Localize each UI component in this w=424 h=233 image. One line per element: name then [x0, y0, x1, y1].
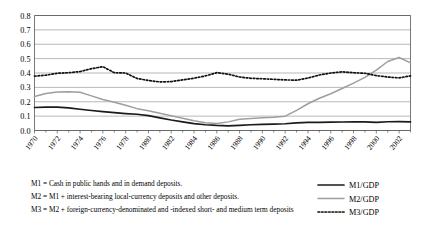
y-tick-label: 0.2 — [20, 98, 30, 107]
footnotes-group: M1 = Cash in public hands and in demand … — [31, 179, 294, 214]
x-tick-label: 1982 — [160, 134, 177, 152]
money-gdp-line-chart: 0.00.10.20.30.40.50.60.70.8 197019721974… — [0, 0, 424, 233]
footnote-m3: M3 = M2 + foreign-currency-denominated a… — [31, 205, 294, 214]
x-tick-label: 1988 — [228, 134, 245, 152]
series-line-m2-gdp — [35, 57, 411, 123]
x-tick-label: 1998 — [342, 134, 359, 152]
legend-label-m1-gdp: M1/GDP — [349, 181, 379, 190]
y-tick-label: 0.4 — [20, 69, 30, 78]
chart-figure: 0.00.10.20.30.40.50.60.70.8 197019721974… — [0, 0, 424, 233]
x-tick-label: 1970 — [23, 134, 40, 152]
y-axis-tick-labels: 0.00.10.20.30.40.50.60.70.8 — [20, 12, 30, 136]
x-tick-label: 1976 — [91, 134, 108, 152]
x-tick-label: 1994 — [297, 134, 314, 152]
x-tick-label: 1972 — [46, 134, 63, 152]
x-tick-label: 1984 — [183, 134, 200, 152]
x-tick-label: 1986 — [205, 134, 222, 152]
x-axis-tick-labels: 1970197219741976197819801982198419861988… — [23, 134, 404, 152]
x-tick-label: 1978 — [114, 134, 131, 152]
x-tick-label: 1996 — [319, 134, 336, 152]
y-tick-label: 0.3 — [20, 83, 30, 92]
x-tick-label: 1992 — [274, 134, 291, 152]
legend-label-m2-gdp: M2/GDP — [349, 195, 379, 204]
series-line-m3-gdp — [35, 67, 411, 82]
y-tick-label: 0.6 — [20, 40, 30, 49]
footnote-m1: M1 = Cash in public hands and in demand … — [31, 179, 182, 188]
y-tick-label: 0.1 — [20, 112, 30, 121]
y-tick-label: 0.0 — [20, 127, 30, 136]
legend-group: M1/GDPM2/GDPM3/GDP — [318, 181, 379, 217]
data-series-group — [35, 57, 411, 125]
y-tick-label: 0.5 — [20, 55, 30, 64]
x-tick-label: 1980 — [137, 134, 154, 152]
x-tick-label: 1974 — [69, 134, 86, 152]
y-tick-label: 0.8 — [20, 12, 30, 21]
x-axis-tickmarks — [35, 131, 411, 134]
legend-label-m3-gdp: M3/GDP — [349, 208, 379, 217]
footnote-m2: M2 = M1 + interest-bearing local-currenc… — [31, 192, 239, 201]
x-tick-label: 1990 — [251, 134, 268, 152]
x-tick-label: 2000 — [365, 134, 382, 152]
x-tick-label: 2002 — [388, 134, 405, 152]
y-tick-label: 0.7 — [20, 26, 30, 35]
